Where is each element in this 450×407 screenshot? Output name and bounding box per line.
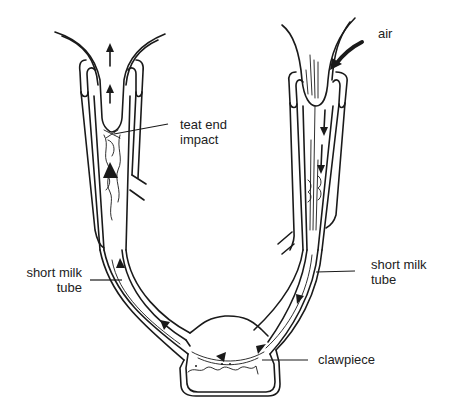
left-teat-cup bbox=[55, 32, 165, 250]
label-short-milk-tube-right-line1: short milk bbox=[371, 257, 427, 272]
label-short-milk-tube-right-line2: tube bbox=[371, 272, 427, 287]
label-clawpiece-text: clawpiece bbox=[318, 352, 375, 367]
impact-arrow-icon bbox=[103, 162, 118, 178]
arrow-up-icon bbox=[106, 84, 114, 103]
label-short-milk-tube-right: short milk tube bbox=[371, 257, 427, 287]
left-short-milk-tube bbox=[100, 250, 190, 360]
right-teat-cup bbox=[278, 18, 362, 254]
leader-short-milk-tube-right bbox=[316, 271, 355, 272]
label-short-milk-tube-left-line2: tube bbox=[20, 280, 82, 295]
arrow-down-left-icon bbox=[256, 344, 266, 354]
arrow-up-icon bbox=[106, 43, 114, 66]
label-clawpiece: clawpiece bbox=[318, 352, 375, 367]
clawpiece bbox=[180, 316, 280, 396]
label-teat-end-impact-line1: teat end bbox=[180, 117, 227, 132]
arrow-down-icon bbox=[296, 294, 304, 304]
label-teat-end-impact: teat end impact bbox=[180, 117, 227, 147]
arrow-down-icon bbox=[320, 110, 328, 136]
label-short-milk-tube-left: short milk tube bbox=[20, 265, 82, 295]
label-short-milk-tube-left-line1: short milk bbox=[20, 265, 82, 280]
label-air-text: air bbox=[378, 26, 392, 41]
label-teat-end-impact-line2: impact bbox=[180, 132, 227, 147]
arrow-down-icon bbox=[317, 145, 325, 174]
label-air: air bbox=[378, 26, 392, 41]
right-short-milk-tube bbox=[254, 250, 322, 354]
milking-unit-diagram bbox=[0, 0, 450, 407]
